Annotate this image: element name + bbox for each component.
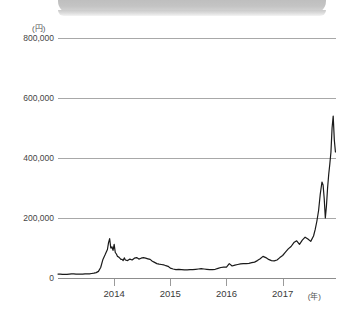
chart-figure: (円) 800,000600,000400,000200,0000 201420…	[0, 0, 346, 321]
price-line-series	[0, 0, 346, 321]
price-line-path	[58, 116, 335, 274]
